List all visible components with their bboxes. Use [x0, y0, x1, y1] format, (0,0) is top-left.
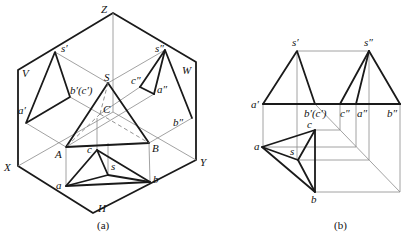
label-s-prime: s′ [292, 36, 299, 48]
label-bc-prime: b′(c′) [70, 84, 93, 97]
side-view-base [140, 87, 154, 94]
caption-b: (b) [334, 219, 347, 232]
label-b-double: b″ [387, 107, 398, 119]
label-a-double: a″ [357, 107, 368, 119]
side-view-edge [356, 51, 369, 104]
label-a-prime: a′ [251, 98, 260, 110]
side-view-edge [369, 51, 400, 104]
proj-line [149, 118, 192, 143]
label-s: s [111, 160, 115, 172]
label-s-double: s″ [155, 42, 164, 54]
label-a-double: a″ [157, 83, 168, 95]
pyramid-hidden-edge [66, 114, 100, 147]
label-c: c [87, 143, 92, 155]
label-b: b [311, 193, 317, 205]
label-h: H [97, 202, 107, 214]
proj-line [149, 143, 150, 182]
proj-line [70, 97, 100, 114]
figure-b-orthographic: s′ a′ b′(c′) s″ c″ a″ b″ a c s b (b) [251, 36, 400, 232]
label-y: Y [200, 156, 208, 168]
label-S: S [104, 71, 110, 83]
caption-a: (a) [97, 219, 110, 232]
projection-diagram: Z X Y V W H s′ a′ b′(c′) s″ c″ a″ b″ S C… [0, 0, 407, 236]
label-a: a [56, 179, 62, 191]
top-view-edge [298, 160, 315, 192]
top-view-triangle [262, 130, 315, 192]
figure-a-isometric: Z X Y V W H s′ a′ b′(c′) s″ c″ a″ b″ S C… [3, 3, 208, 232]
label-s-double: s″ [364, 36, 373, 48]
label-w: W [182, 64, 192, 76]
front-view-triangle [263, 51, 315, 104]
label-s-prime: s′ [61, 42, 68, 54]
label-a: a [254, 140, 260, 152]
label-v: V [22, 67, 30, 79]
label-c-double: c″ [340, 107, 350, 119]
label-c: c [307, 118, 312, 130]
front-view-triangle [26, 52, 70, 123]
label-z: Z [101, 3, 108, 15]
label-b-double: b″ [173, 116, 184, 128]
label-x: X [3, 161, 12, 173]
proj-line [26, 123, 66, 147]
label-A: A [54, 148, 62, 160]
label-b: b [153, 173, 159, 185]
label-s: s [290, 145, 294, 157]
label-c-double: c″ [131, 74, 141, 86]
label-a-prime: a′ [18, 104, 27, 116]
label-B: B [152, 142, 159, 154]
side-view-edge [340, 51, 369, 104]
label-C: C [103, 103, 111, 115]
